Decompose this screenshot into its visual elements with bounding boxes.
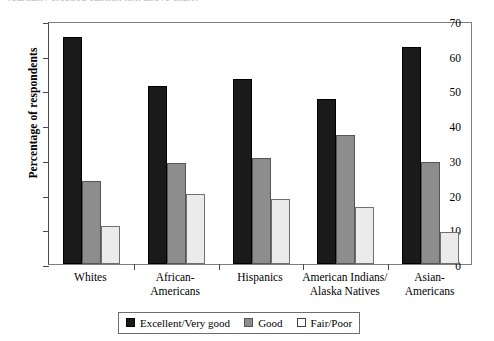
bar-group [388, 23, 473, 264]
legend-entry: Good [244, 317, 282, 329]
category-label-line: Asian- [373, 270, 486, 284]
bar-group [134, 23, 219, 264]
legend-swatch-icon [297, 318, 306, 327]
bar-2 [271, 199, 290, 264]
legend-label: Good [258, 317, 282, 329]
legend-entry: Excellent/Very good [126, 317, 230, 329]
category-label-line: Americans [119, 284, 232, 298]
bar-0 [317, 99, 336, 264]
bar-group [303, 23, 388, 264]
legend-entry: Fair/Poor [297, 317, 353, 329]
legend-label: Fair/Poor [311, 317, 353, 329]
bar-group [49, 23, 134, 264]
x-axis-category-labels: WhitesAfrican-AmericansHispanicsAmerican… [48, 270, 472, 306]
bar-0 [63, 37, 82, 264]
bar-0 [402, 47, 421, 264]
chart-legend: Excellent/Very goodGoodFair/Poor [118, 312, 360, 334]
bar-1 [336, 135, 355, 264]
category-label-line: Americans [373, 284, 486, 298]
bar-1 [421, 162, 440, 264]
y-axis-title: Percentage of respondents [27, 18, 39, 208]
bar-0 [148, 86, 167, 264]
bar-1 [252, 158, 271, 264]
bar-2 [101, 226, 120, 264]
legend-swatch-icon [244, 318, 253, 327]
y-axis-tick-mark [43, 266, 49, 267]
bar-group [219, 23, 304, 264]
bar-1 [167, 163, 186, 264]
bars-layer [49, 23, 471, 264]
bar-chart-figure: Percentage of respondents 01020304050607… [0, 0, 494, 341]
bar-2 [186, 194, 205, 264]
bar-1 [82, 181, 101, 264]
plot-area: 010203040506070 [48, 22, 472, 265]
legend-label: Excellent/Very good [140, 317, 230, 329]
x-axis-category-label: Asian-Americans [373, 270, 486, 298]
bar-2 [440, 232, 459, 264]
legend-swatch-icon [126, 318, 135, 327]
bar-2 [355, 207, 374, 264]
bar-0 [233, 79, 252, 264]
